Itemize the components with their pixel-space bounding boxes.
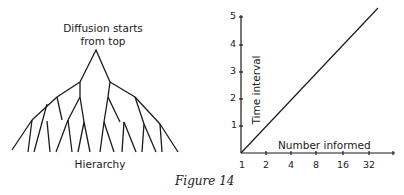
y-tick-2: 2 [230,92,236,103]
y-tick-4: 4 [230,38,236,49]
x-tick-1: 1 [239,159,245,170]
hierarchy-tree [12,50,178,152]
title-line-2: from top [58,35,148,48]
x-tick-4: 4 [288,159,294,170]
x-tick-16: 16 [337,159,349,170]
chart-axes [239,15,395,155]
y-tick-3: 3 [230,65,236,76]
y-tick-5: 5 [230,10,236,21]
y-axis-label: Time interval [250,50,262,130]
x-axis-label: Number informed [278,139,371,151]
title-line-1: Diffusion starts [58,22,148,35]
x-tick-8: 8 [313,159,319,170]
x-tick-32: 32 [363,159,375,170]
diagram-title: Diffusion starts from top [58,22,148,48]
y-tick-1: 1 [231,119,237,130]
figure-caption: Figure 14 [175,174,235,188]
x-tick-2: 2 [263,159,269,170]
hierarchy-label: Hierarchy [70,158,130,170]
